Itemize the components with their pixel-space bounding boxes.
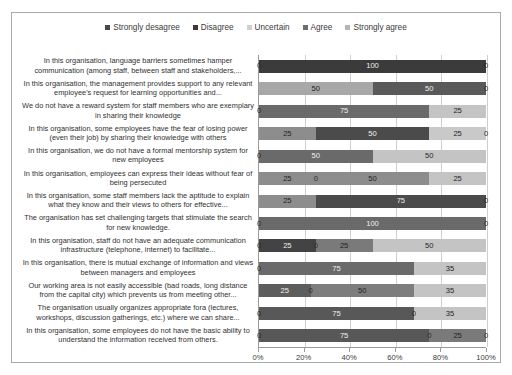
bar-segment[interactable]: 100 <box>259 217 486 230</box>
bar-value-label: 25 <box>281 287 289 295</box>
bar-value-label: 0 <box>412 310 416 318</box>
bar-value-label: 25 <box>283 130 291 138</box>
legend-item[interactable]: Disagree <box>193 23 234 32</box>
bar-value-label: 50 <box>312 152 320 160</box>
bar-segment[interactable]: 100 <box>259 60 486 73</box>
bar-segment[interactable]: 50 <box>311 284 414 297</box>
axis-tick <box>304 348 305 352</box>
bar-value-label: 0 <box>427 332 431 340</box>
bar-value-label: 50 <box>425 85 433 93</box>
bar-value-label: 0 <box>484 220 488 228</box>
bar-value-label: 0 <box>484 85 488 93</box>
category-label: In this organisation, we do not have a f… <box>22 146 254 165</box>
bar-row[interactable]: 01000 <box>259 217 486 230</box>
category-axis-labels: In this organisation, language barriers … <box>18 55 256 347</box>
bar-segment[interactable]: 75 <box>259 329 429 342</box>
axis-tick-label: 80% <box>433 353 448 362</box>
category-label: In this organisation, some staff members… <box>22 191 254 210</box>
bar-value-label: 25 <box>283 197 291 205</box>
bar-value-label: 50 <box>368 130 376 138</box>
legend-label: Uncertain <box>255 23 290 32</box>
category-label: In this organisation, staff do not have … <box>22 236 254 255</box>
bar-value-label: 0 <box>308 287 312 295</box>
bar-segment[interactable]: 25 <box>259 284 311 297</box>
legend-item[interactable]: Uncertain <box>247 23 290 32</box>
bar-segment[interactable]: 50 <box>373 239 487 252</box>
legend-swatch-icon <box>193 25 198 30</box>
axis-tick <box>395 348 396 352</box>
bar-row[interactable]: 05050 <box>259 150 486 163</box>
bar-segment[interactable]: 75 <box>259 307 414 320</box>
bar-value-label: 0 <box>314 242 318 250</box>
bar-segment[interactable]: 50 <box>259 150 373 163</box>
bar-row[interactable]: 2505025 <box>259 172 486 185</box>
bar-value-label: 100 <box>366 62 379 70</box>
legend-item[interactable]: Agree <box>303 23 333 32</box>
bar-value-label: 50 <box>425 152 433 160</box>
legend-item[interactable]: Strongly agree <box>345 23 406 32</box>
category-label: Our working area is not easily accessibl… <box>22 281 254 300</box>
legend-swatch-icon <box>105 25 110 30</box>
bar-value-label: 35 <box>446 265 454 273</box>
bar-segment[interactable]: 25 <box>259 172 316 185</box>
bar-value-label: 25 <box>283 175 291 183</box>
axis-tick-label: 20% <box>296 353 311 362</box>
bar-segment[interactable]: 25 <box>259 239 316 252</box>
bar-segment[interactable]: 50 <box>373 150 487 163</box>
bar-value-label: 35 <box>446 287 454 295</box>
bar-segment[interactable]: 25 <box>429 329 486 342</box>
bar-segment[interactable]: 50 <box>373 82 487 95</box>
bar-segment[interactable]: 25 <box>429 127 486 140</box>
legend-swatch-icon <box>303 25 308 30</box>
bar-value-label: 25 <box>453 332 461 340</box>
bar-value-label: 0 <box>257 152 261 160</box>
bar-segment[interactable]: 25 <box>429 105 486 118</box>
bar-segment[interactable]: 50 <box>316 172 430 185</box>
legend-label: Strongly agree <box>353 23 406 32</box>
axis-tick-label: 100% <box>476 353 495 362</box>
legend-label: Strongly desagree <box>113 23 179 32</box>
legend-label: Agree <box>311 23 333 32</box>
bar-row[interactable]: 075035 <box>259 307 486 320</box>
bar-segment[interactable]: 25 <box>259 195 316 208</box>
bar-row[interactable]: 01000 <box>259 60 486 73</box>
bar-segment[interactable]: 50 <box>259 82 373 95</box>
axis-tick <box>349 348 350 352</box>
bar-row[interactable]: 02502550 <box>259 239 486 252</box>
bar-row[interactable]: 25750 <box>259 195 486 208</box>
axis-tick-label: 60% <box>387 353 402 362</box>
legend-item[interactable]: Strongly desagree <box>105 23 179 32</box>
bar-value-label: 25 <box>340 242 348 250</box>
category-label: In this organisation, the management pro… <box>22 79 254 98</box>
bar-value-label: 0 <box>257 242 261 250</box>
bar-segment[interactable]: 25 <box>259 127 316 140</box>
bar-segment[interactable]: 25 <box>429 172 486 185</box>
bar-value-label: 50 <box>312 85 320 93</box>
bar-row[interactable]: 0750250 <box>259 329 486 342</box>
bar-segment[interactable]: 75 <box>259 262 414 275</box>
bar-row[interactable]: 50500 <box>259 82 486 95</box>
axis-tick <box>440 348 441 352</box>
category-label: We do not have a reward system for staff… <box>22 101 254 120</box>
bar-segment[interactable]: 50 <box>316 127 430 140</box>
bar-value-label: 0 <box>314 175 318 183</box>
bar-row[interactable]: 07535 <box>259 262 486 275</box>
chart-container: Strongly desagreeDisagreeUncertainAgreeS… <box>11 12 501 363</box>
category-label: The organisation usually organizes appro… <box>22 303 254 322</box>
bar-value-label: 75 <box>332 265 340 273</box>
bar-segment[interactable]: 35 <box>414 262 486 275</box>
category-label: In this organisation, some employees do … <box>22 326 254 345</box>
bar-segment[interactable]: 75 <box>259 105 429 118</box>
bar-row[interactable]: 07525 <box>259 105 486 118</box>
bar-value-label: 75 <box>340 107 348 115</box>
bar-value-label: 100 <box>366 220 379 228</box>
bar-segment[interactable]: 35 <box>414 284 486 297</box>
bar-value-label: 0 <box>484 332 488 340</box>
bar-value-label: 0 <box>484 62 488 70</box>
bar-segment[interactable]: 25 <box>316 239 373 252</box>
bar-value-label: 25 <box>453 130 461 138</box>
bar-row[interactable]: 2550250 <box>259 127 486 140</box>
bar-row[interactable]: 2505035 <box>259 284 486 297</box>
bar-segment[interactable]: 35 <box>414 307 486 320</box>
bar-segment[interactable]: 75 <box>316 195 486 208</box>
